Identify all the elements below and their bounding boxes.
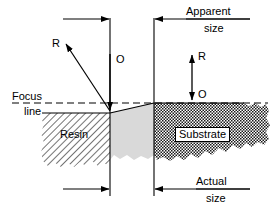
ray-label-left: R bbox=[52, 37, 60, 49]
ray-arrow-left bbox=[66, 44, 110, 111]
apparent-size-label-2: size bbox=[204, 22, 224, 34]
optic-label-right: O bbox=[198, 88, 207, 100]
figure-root: Focus line Resin Substrate Apparent size… bbox=[0, 0, 274, 217]
substrate-label: Substrate bbox=[175, 127, 230, 142]
resin-label: Resin bbox=[60, 128, 88, 140]
actual-size-label-1: Actual bbox=[196, 175, 227, 187]
focus-line-label-2: line bbox=[24, 105, 41, 117]
apparent-size-label-1: Apparent bbox=[186, 5, 231, 17]
focus-line-label-1: Focus bbox=[12, 90, 42, 102]
actual-size-label-2: size bbox=[206, 192, 226, 204]
optic-label-left: O bbox=[116, 53, 125, 65]
ray-label-right: R bbox=[198, 50, 206, 62]
resin-body bbox=[41, 113, 110, 167]
